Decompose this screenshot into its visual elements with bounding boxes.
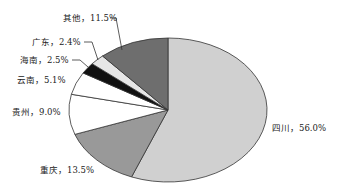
label-guizhou: 贵州，9.0% [12,107,61,117]
label-hainan: 海南，2.5% [20,55,69,65]
label-guangdong: 广东，2.4% [32,37,81,47]
pie-slices [69,38,267,182]
pie-chart: 其他，11.5% 广东，2.4% 海南，2.5% 云南，5.1% 贵州，9.0%… [0,0,342,191]
label-yunnan: 云南，5.1% [17,75,66,85]
leader-line-hainan [72,60,88,67]
leader-line-guangdong [84,42,98,60]
label-chongqing: 重庆，13.5% [40,165,94,175]
label-qita: 其他，11.5% [63,13,117,23]
label-sichuan: 四川，56.0% [272,123,326,133]
